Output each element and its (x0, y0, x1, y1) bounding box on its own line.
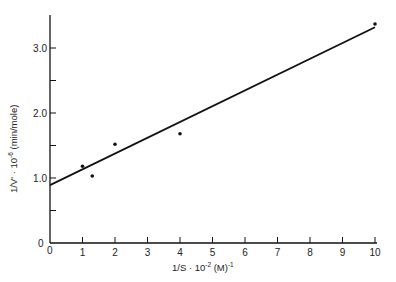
lineweaver-burk-plot: 123456789101.02.03.0 0 0 1/S · 10-2 (M)-… (0, 0, 396, 282)
x-tick-label: 4 (177, 247, 183, 258)
x-tick-label: 7 (275, 247, 281, 258)
y-origin-label: 0 (38, 238, 44, 249)
y-tick-label: 1.0 (33, 173, 47, 184)
x-tick-label: 8 (307, 247, 313, 258)
y-tick-label: 3.0 (33, 43, 47, 54)
y-tick-label: 2.0 (33, 108, 47, 119)
data-point (178, 132, 182, 136)
fit-line (50, 27, 375, 185)
x-tick-label: 6 (242, 247, 248, 258)
data-points (81, 22, 377, 178)
x-tick-label: 5 (210, 247, 216, 258)
tick-marks: 123456789101.02.03.0 (33, 43, 381, 259)
data-point (373, 22, 377, 26)
x-axis-label: 1/S · 10-2 (M)-1 (172, 261, 234, 273)
x-tick-label: 1 (80, 247, 86, 258)
x-tick-label: 9 (340, 247, 346, 258)
x-tick-label: 2 (112, 247, 118, 258)
regression-line (50, 27, 375, 185)
y-axis-label: 1/V' · 10-6 (min/mole) (7, 105, 19, 193)
x-tick-label: 10 (369, 247, 381, 258)
data-point (90, 174, 94, 178)
x-origin-label: 0 (47, 245, 53, 256)
data-point (81, 165, 85, 169)
x-tick-label: 3 (145, 247, 151, 258)
data-point (113, 142, 117, 146)
